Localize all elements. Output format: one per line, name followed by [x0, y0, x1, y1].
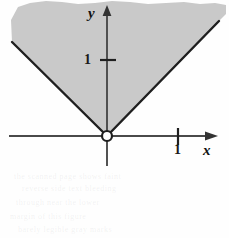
- shaded-region-above-v: [11, 1, 226, 136]
- graph-figure: y x 1 1 the scanned page shows faint rev…: [0, 0, 229, 238]
- open-circle-icon: [102, 131, 112, 141]
- x-axis-label: x: [203, 143, 211, 158]
- x-tick-label-1: 1: [174, 143, 181, 157]
- y-axis-label: y: [88, 6, 95, 21]
- plot-canvas: [0, 0, 229, 238]
- arrow-right-icon: [205, 132, 218, 141]
- y-tick-label-1: 1: [84, 53, 91, 67]
